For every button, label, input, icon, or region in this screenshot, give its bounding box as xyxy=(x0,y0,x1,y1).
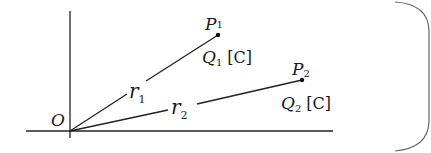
q2-charge-label: Q2[C] xyxy=(281,93,331,114)
r1-label: r1 xyxy=(129,79,146,106)
coulomb-diagram: O r1 r2 P1 Q1[C] P2 Q2[C] xyxy=(0,0,431,153)
r2-label: r2 xyxy=(171,95,188,122)
point-p1 xyxy=(216,33,220,37)
r2-line-lower xyxy=(70,110,168,131)
p2-label: P2 xyxy=(291,59,310,79)
q1-charge-label: Q1[C] xyxy=(202,47,252,68)
frame-border xyxy=(395,2,429,151)
origin-label: O xyxy=(51,110,65,130)
p1-label: P1 xyxy=(204,14,223,34)
